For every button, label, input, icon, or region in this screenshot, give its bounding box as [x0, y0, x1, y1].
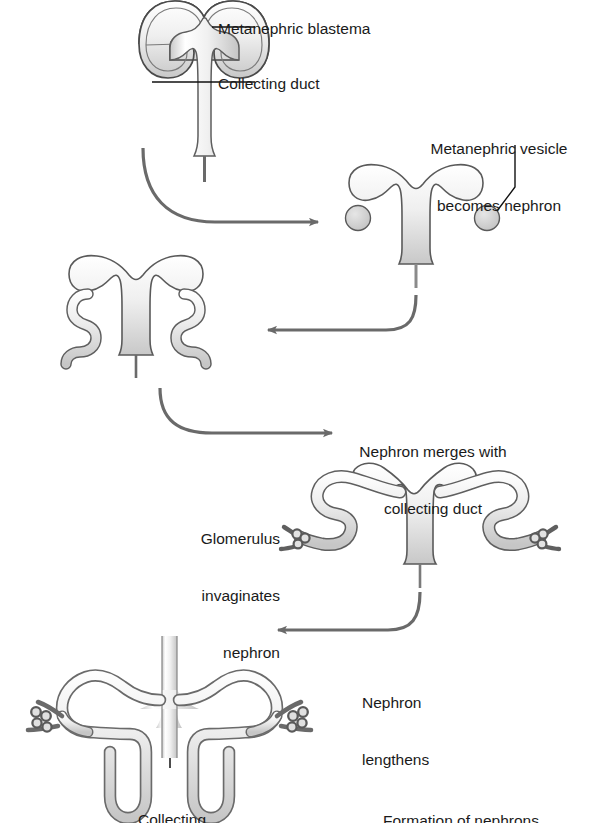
label-metanephric-vesicle-becomes-nephron: Metanephric vesicle becomes nephron — [405, 101, 593, 234]
label-line-3: nephron — [165, 643, 280, 662]
label-collecting-duct-bottom: Collecting duct — [112, 772, 232, 823]
label-metanephric-blastema: Metanephric blastema — [218, 19, 371, 38]
label-line-1: Formation of nephrons — [383, 811, 544, 823]
label-line-1: Nephron merges with — [318, 442, 548, 461]
label-nephron-merges-with-collecting-duct: Nephron merges with collecting duct — [318, 404, 548, 537]
label-line-1: Nephron — [362, 693, 429, 712]
label-nephron-lengthens: Nephron lengthens — [362, 655, 429, 788]
label-formation-continues-until-week-32: Formation of nephrons continues until we… — [383, 773, 544, 823]
label-collecting-duct-top: Collecting duct — [218, 74, 320, 93]
metanephric-vesicle-left — [346, 206, 371, 231]
label-line-2: collecting duct — [318, 499, 548, 518]
label-line-2: lengthens — [362, 750, 429, 769]
label-line-2: invaginates — [165, 586, 280, 605]
label-glomerulus-invaginates-nephron: Glomerulus invaginates nephron — [165, 491, 280, 681]
label-line-1: Glomerulus — [165, 529, 280, 548]
label-line-1: Metanephric vesicle — [405, 139, 593, 158]
label-line-2: becomes nephron — [405, 196, 593, 215]
label-line-1: Collecting — [112, 810, 232, 823]
